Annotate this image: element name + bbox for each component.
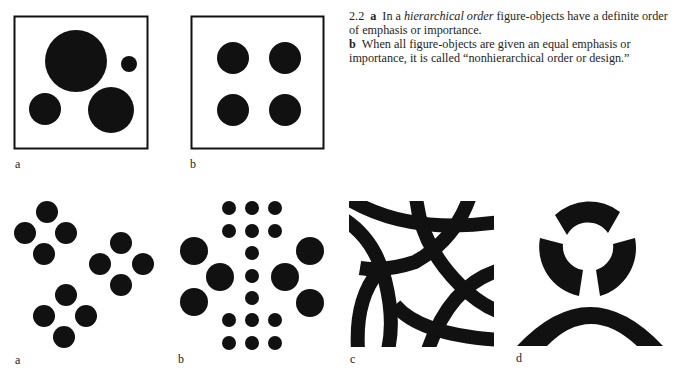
bottom-panel-a	[14, 201, 154, 348]
caption-a: 2.2aIn a hierarchical order figure-objec…	[349, 9, 674, 37]
small-circle	[121, 56, 137, 72]
medium-circle-left	[29, 93, 61, 125]
ring-right-segment	[596, 238, 636, 296]
bottom-panel-c	[345, 196, 500, 350]
top-label-b: b	[190, 157, 196, 172]
equal-circle	[217, 42, 249, 74]
caption-letter-a: a	[370, 9, 376, 23]
frame	[192, 17, 324, 149]
equal-circle	[269, 94, 301, 126]
bottom-arch	[517, 307, 663, 346]
top-panel-b	[192, 17, 324, 149]
equal-circle	[269, 42, 301, 74]
figure-number: 2.2	[349, 9, 364, 23]
caption-letter-b: b	[349, 37, 356, 51]
bottom-panel-b	[180, 201, 324, 350]
bottom-label-c: c	[350, 352, 355, 367]
top-panel-a	[15, 17, 148, 149]
ring-left-segment	[539, 238, 583, 296]
emphasized-term: hierarchical order	[404, 9, 493, 23]
top-label-a: a	[15, 157, 20, 172]
bottom-label-d: d	[516, 351, 522, 366]
bottom-label-b: b	[178, 352, 184, 367]
bottom-label-a: a	[15, 353, 20, 368]
caption-b: bWhen all figure-objects are given an eq…	[349, 37, 674, 65]
ring-top-segment	[555, 201, 620, 235]
equal-circle	[217, 94, 249, 126]
large-circle	[45, 30, 107, 92]
medium-circle-right	[88, 87, 134, 133]
bottom-panel-d	[517, 201, 663, 346]
figure-caption: 2.2aIn a hierarchical order figure-objec…	[349, 9, 674, 65]
